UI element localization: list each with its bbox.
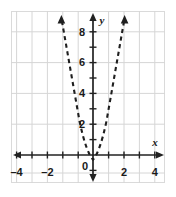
plot-background	[11, 11, 165, 183]
origin-label: 0	[82, 160, 88, 172]
graph-figure: –4 –2 2 4 0 2 4 6 8 x y	[0, 0, 176, 197]
y-axis-label: y	[98, 14, 105, 26]
y-tick-label-4: 4	[79, 87, 86, 99]
x-tick-label-2: 2	[121, 166, 127, 178]
x-axis-label: x	[151, 136, 158, 148]
y-tick-label-8: 8	[79, 26, 85, 38]
x-tick-label--4: –4	[10, 166, 23, 178]
x-tick-label--2: –2	[41, 166, 53, 178]
y-tick-label-2: 2	[79, 118, 85, 130]
x-tick-label-4: 4	[152, 166, 159, 178]
y-tick-label-6: 6	[79, 56, 85, 68]
coordinate-plane-graph: –4 –2 2 4 0 2 4 6 8 x y	[0, 0, 176, 197]
